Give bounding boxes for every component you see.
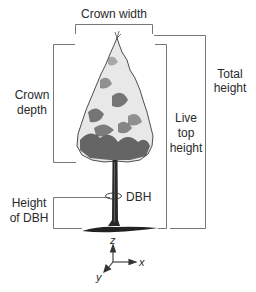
coordinate-axes xyxy=(104,245,136,272)
dbh-height-label-line2: of DBH xyxy=(6,211,52,225)
crown-depth-bracket xyxy=(54,45,77,163)
dbh-height-bracket xyxy=(54,198,111,229)
crown-width-bracket xyxy=(76,25,153,35)
ground-shadow xyxy=(82,227,158,233)
dbh-label: DBH xyxy=(126,190,151,204)
crown-depth-label-line1: Crown xyxy=(10,88,54,102)
live-top-height-label-line3: height xyxy=(166,141,206,155)
live-top-height-label-line1: Live xyxy=(166,111,206,125)
axis-z-label: z xyxy=(110,234,116,246)
live-top-height-label-line2: top xyxy=(166,126,206,140)
live-top-height-bracket xyxy=(155,45,167,229)
axis-y-label: y xyxy=(96,271,102,283)
crown-width-label: Crown width xyxy=(76,7,152,21)
dbh-height-label-line1: Height xyxy=(6,196,52,210)
axis-x-label: x xyxy=(139,256,145,268)
tree-diagram-canvas xyxy=(0,0,256,292)
tree-crown xyxy=(77,31,153,162)
total-height-label-line2: height xyxy=(208,81,252,95)
crown-depth-label-line2: depth xyxy=(10,103,54,117)
total-height-label-line1: Total xyxy=(208,67,252,81)
